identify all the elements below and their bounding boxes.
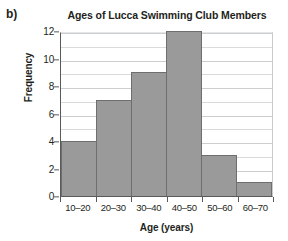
bar xyxy=(236,182,272,196)
y-axis-tick-mark xyxy=(54,31,59,32)
y-axis-tick-mark xyxy=(54,114,59,115)
y-axis-tick-mark xyxy=(54,169,59,170)
chart-title: Ages of Lucca Swimming Club Members xyxy=(56,10,278,22)
x-axis-tick-label: 40–50 xyxy=(167,203,203,213)
bar xyxy=(201,155,237,196)
x-axis-tick-labels: 10–2020–3030–4040–5050–6060–70 xyxy=(60,203,273,213)
panel-label: b) xyxy=(6,8,17,20)
x-axis-tick-mark xyxy=(131,197,132,202)
x-axis-title: Age (years) xyxy=(60,222,273,233)
x-axis-tick-label: 10–20 xyxy=(60,203,96,213)
y-axis-tick-mark xyxy=(54,59,59,60)
plot-area xyxy=(60,32,273,197)
x-axis-tick-mark xyxy=(202,197,203,202)
y-axis-tick-mark xyxy=(54,141,59,142)
x-axis-tick-mark xyxy=(167,197,168,202)
bar-series xyxy=(61,33,272,196)
x-axis-tick-mark xyxy=(96,197,97,202)
bar xyxy=(61,141,97,196)
x-axis-tick-label: 50–60 xyxy=(202,203,238,213)
x-axis-tick-mark xyxy=(273,197,274,202)
y-axis-tick-mark xyxy=(54,86,59,87)
x-axis-tick-mark xyxy=(60,197,61,202)
histogram-figure: b) Ages of Lucca Swimming Club Members F… xyxy=(0,0,288,241)
x-axis-tick-marks xyxy=(60,197,273,202)
x-axis-tick-label: 20–30 xyxy=(96,203,132,213)
x-axis-tick-mark xyxy=(238,197,239,202)
bar xyxy=(166,31,202,196)
y-axis-tick-marks xyxy=(0,32,60,197)
x-axis-tick-label: 60–70 xyxy=(238,203,274,213)
bar xyxy=(96,100,132,196)
x-axis-tick-label: 30–40 xyxy=(131,203,167,213)
y-axis-tick-mark xyxy=(54,196,59,197)
bar xyxy=(131,72,167,196)
